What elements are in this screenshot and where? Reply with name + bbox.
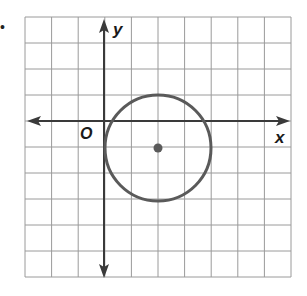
y-axis-label: y [112,20,124,39]
coordinate-graph-figure: • y x O [0,0,307,296]
circle-center-point [154,144,163,153]
origin-label: O [80,125,93,142]
x-axis-label: x [274,128,286,147]
problem-bullet: • [0,19,5,35]
